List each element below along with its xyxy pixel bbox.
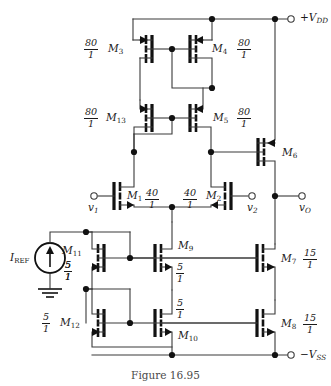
transistor-M11 [86, 232, 130, 289]
label-vdd: +VDD [300, 12, 328, 24]
label-M9: M9 [178, 240, 193, 252]
label-v2: v2 [247, 202, 258, 214]
label-vss: −VSS [300, 349, 326, 361]
ratio-M5: 80 1 [237, 107, 251, 129]
terminal-vss [288, 352, 294, 358]
ratio-M4: 80 1 [237, 38, 251, 60]
label-M13: M13 [106, 112, 126, 124]
label-M4: M4 [212, 43, 227, 55]
ratio-M13: 80 1 [84, 107, 98, 129]
ratio-M10: 5 1 [176, 298, 184, 320]
terminal-v2 [249, 193, 255, 199]
vdd-rail-wires [133, 19, 288, 140]
label-vo: vO [299, 202, 311, 214]
terminal-v1 [91, 193, 97, 199]
label-M5: M5 [213, 112, 228, 124]
figure-caption: Figure 16.95 [0, 369, 331, 381]
label-iref: IREF [10, 252, 29, 265]
ratio-M1: 40 1 [145, 188, 159, 210]
label-M6: M6 [282, 147, 297, 159]
ratio-M8: 15 1 [303, 313, 317, 335]
label-M3: M3 [108, 43, 123, 55]
transistor-M3 [140, 35, 172, 100]
label-M7: M7 [281, 253, 296, 265]
label-M11: M11 [62, 245, 82, 257]
label-M10: M10 [178, 330, 198, 342]
terminal-vdd [288, 16, 294, 22]
ratio-M12: 5 1 [42, 312, 50, 334]
ratio-M11: 5 1 [64, 260, 72, 282]
label-M8: M8 [281, 318, 296, 330]
terminal-vo [299, 193, 305, 199]
output-node-wires [275, 196, 299, 244]
transistor-M13 [134, 100, 172, 152]
label-M2: M2 [206, 190, 221, 202]
ratio-M2: 40 1 [183, 188, 197, 210]
ratio-M3: 80 1 [84, 38, 98, 60]
transistor-M4 [172, 35, 212, 88]
reference-current-source [35, 232, 86, 297]
transistor-M12 [86, 289, 172, 347]
ratio-M7: 15 1 [303, 248, 317, 270]
label-M1: M1 [127, 190, 142, 202]
ratio-M9: 5 1 [176, 262, 184, 284]
label-M12: M12 [60, 317, 80, 329]
transistor-M9 [130, 222, 257, 290]
figure-container: +VDD −VSS v1 v2 vO IREF 5 1 M3 M4 M13 M5… [0, 0, 331, 386]
label-v1: v1 [88, 202, 99, 214]
